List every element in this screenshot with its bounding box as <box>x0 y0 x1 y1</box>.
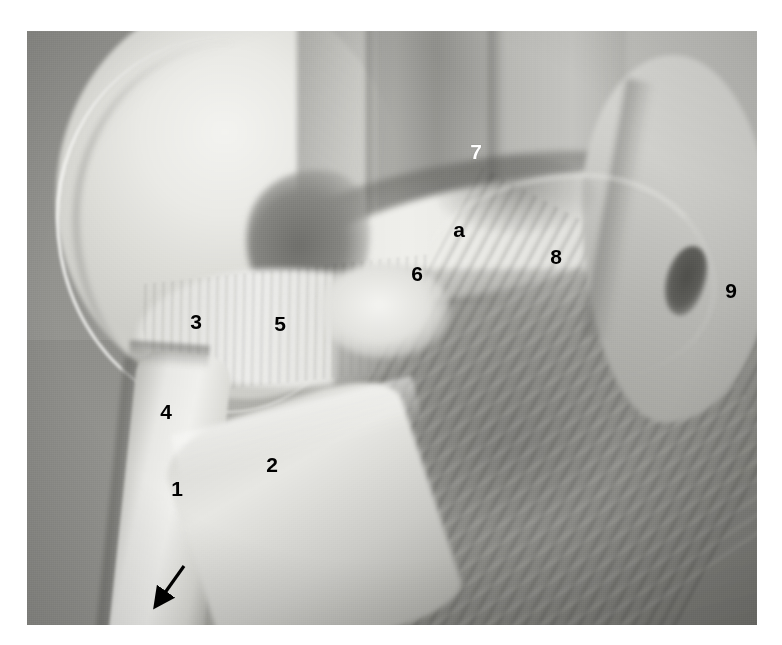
callout-label-4: 4 <box>160 401 172 422</box>
callout-label-7: 7 <box>470 141 482 162</box>
callout-label-2: 2 <box>266 454 278 475</box>
figure-root: 1 2 3 4 5 6 7 8 9 a <box>0 0 782 645</box>
callout-label-6: 6 <box>411 263 423 284</box>
direction-arrow <box>0 0 782 645</box>
callout-label-3: 3 <box>190 311 202 332</box>
callout-label-5: 5 <box>274 313 286 334</box>
callout-label-8: 8 <box>550 246 562 267</box>
callout-label-1: 1 <box>171 478 183 499</box>
callout-label-a: a <box>453 219 465 240</box>
callout-label-9: 9 <box>725 280 737 301</box>
